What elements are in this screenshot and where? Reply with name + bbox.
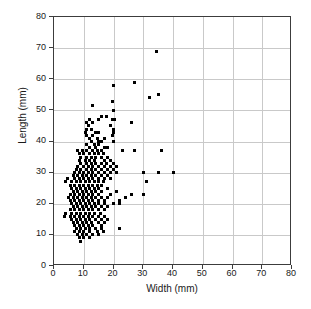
gridline-horizontal: [54, 48, 290, 49]
y-axis-tick: [49, 47, 53, 48]
y-axis-tick: [49, 141, 53, 142]
data-point: [100, 184, 103, 187]
y-axis-tick: [49, 265, 53, 266]
data-point: [64, 180, 67, 183]
data-point: [142, 171, 145, 174]
data-point: [118, 202, 121, 205]
y-axis-tick: [49, 172, 53, 173]
gridline-vertical: [233, 17, 234, 264]
data-point: [82, 236, 85, 239]
data-point: [115, 190, 118, 193]
data-point: [106, 218, 109, 221]
data-point: [91, 134, 94, 137]
x-axis-tick-label: 30: [130, 268, 154, 279]
data-point: [142, 193, 145, 196]
data-point: [118, 227, 121, 230]
x-axis-tick-label: 50: [190, 268, 214, 279]
data-point: [130, 121, 133, 124]
plot-area: [53, 16, 291, 265]
data-point: [100, 190, 103, 193]
data-point: [103, 137, 106, 140]
data-point: [121, 149, 124, 152]
data-point: [63, 215, 66, 218]
gridline-vertical: [143, 17, 144, 264]
data-point: [90, 128, 93, 131]
gridline-vertical: [173, 17, 174, 264]
data-point: [115, 165, 118, 168]
y-axis-title: Length (mm): [17, 46, 28, 186]
data-point: [112, 202, 115, 205]
data-point: [133, 149, 136, 152]
x-axis-tick-label: 40: [160, 268, 184, 279]
y-axis-tick: [49, 16, 53, 17]
data-point: [103, 208, 106, 211]
data-point: [130, 193, 133, 196]
data-point: [172, 171, 175, 174]
data-point: [111, 134, 114, 137]
y-axis-tick-label: 0: [18, 261, 46, 270]
data-point: [145, 180, 148, 183]
data-point: [155, 50, 158, 53]
y-axis-tick: [49, 234, 53, 235]
data-point: [97, 118, 100, 121]
data-point: [97, 131, 100, 134]
y-axis-tick: [49, 203, 53, 204]
data-point: [103, 221, 106, 224]
data-point: [97, 143, 100, 146]
gridline-vertical: [203, 17, 204, 264]
y-axis-tick-label: 80: [18, 12, 46, 21]
data-point: [106, 187, 109, 190]
data-point: [133, 81, 136, 84]
data-point: [91, 233, 94, 236]
x-axis-title: Width (mm): [53, 283, 291, 294]
data-point: [106, 205, 109, 208]
y-axis-tick: [49, 109, 53, 110]
data-point: [160, 149, 163, 152]
data-point: [112, 140, 115, 143]
data-point: [113, 118, 116, 121]
x-axis-tick-label: 80: [279, 268, 303, 279]
data-point: [105, 115, 108, 118]
data-point: [100, 140, 103, 143]
data-point: [100, 115, 103, 118]
y-axis-tick: [49, 78, 53, 79]
data-point: [111, 100, 114, 103]
y-axis-tick-label: 20: [18, 198, 46, 207]
data-point: [88, 236, 91, 239]
gridline-horizontal: [54, 79, 290, 80]
x-axis-tick-label: 60: [220, 268, 244, 279]
data-point: [157, 93, 160, 96]
data-point: [91, 104, 94, 107]
data-point: [106, 196, 109, 199]
scatter-chart-figure: 0102030405060708001020304050607080 Width…: [0, 0, 311, 309]
x-axis-tick-label: 0: [41, 268, 65, 279]
x-axis-tick-label: 70: [249, 268, 273, 279]
data-point: [91, 121, 94, 124]
data-point: [109, 177, 112, 180]
data-point: [124, 196, 127, 199]
gridline-vertical: [262, 17, 263, 264]
x-axis-tick-label: 10: [71, 268, 95, 279]
y-axis-tick-label: 10: [18, 229, 46, 238]
data-point: [157, 171, 160, 174]
data-point: [106, 146, 109, 149]
data-point: [109, 193, 112, 196]
data-point: [79, 240, 82, 243]
data-point: [148, 96, 151, 99]
data-point: [115, 171, 118, 174]
x-axis-tick-label: 20: [101, 268, 125, 279]
data-point: [102, 230, 105, 233]
gridline-horizontal: [54, 110, 290, 111]
data-point: [97, 233, 100, 236]
data-point: [109, 171, 112, 174]
data-point: [112, 84, 115, 87]
data-point: [112, 109, 115, 112]
